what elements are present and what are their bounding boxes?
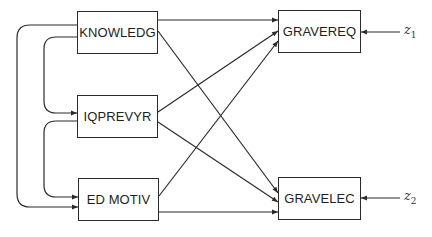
- disturbance-subscript: 2: [411, 196, 417, 206]
- node-label: IQPREVYR: [84, 109, 152, 124]
- node-knowledg: KNOWLEDG: [77, 11, 158, 54]
- node-label: GRAVELEC: [284, 191, 355, 206]
- path-knowledg-gravelec: [158, 31, 278, 193]
- disturbance-label-z2: z2: [404, 188, 417, 206]
- node-gravelec: GRAVELEC: [278, 177, 361, 220]
- disturbance-label-z1: z1: [404, 22, 417, 40]
- diagram-edges: [0, 0, 432, 237]
- node-label: GRAVEREQ: [283, 24, 357, 39]
- correlation-knowledg-edmotiv: [17, 25, 78, 207]
- disturbance-symbol: z: [404, 22, 411, 37]
- correlation-knowledg-iqprevyr: [44, 37, 77, 113]
- path-diagram: KNOWLEDG IQPREVYR ED MOTIV GRAVEREQ GRAV…: [0, 0, 432, 237]
- node-iqprevyr: IQPREVYR: [77, 95, 158, 138]
- path-edmotiv-gravereq: [159, 41, 278, 196]
- disturbance-symbol: z: [404, 188, 411, 203]
- path-iqprevyr-gravelec: [158, 122, 278, 202]
- node-label: ED MOTIV: [87, 192, 151, 207]
- node-label: KNOWLEDG: [79, 25, 156, 40]
- node-gravereq: GRAVEREQ: [278, 10, 361, 53]
- correlation-iqprevyr-edmotiv: [44, 121, 78, 197]
- disturbance-subscript: 1: [411, 30, 417, 40]
- node-edmotiv: ED MOTIV: [78, 178, 159, 221]
- path-iqprevyr-gravereq: [158, 31, 278, 112]
